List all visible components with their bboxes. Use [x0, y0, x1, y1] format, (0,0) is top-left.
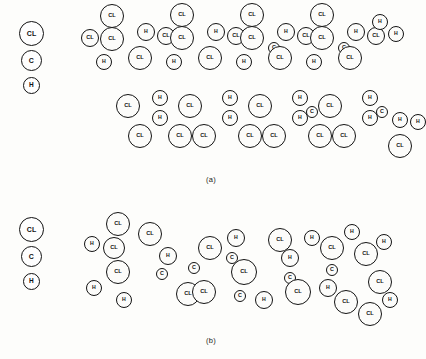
atom-h: H [166, 54, 182, 70]
atom-cl: CL [128, 124, 152, 148]
atom-cl: CL [231, 259, 257, 285]
atom-h: H [227, 229, 245, 247]
atom-cl: CL [240, 26, 264, 50]
atom-h: H [116, 292, 132, 308]
atom-cl: CL [310, 26, 334, 50]
atom-cl: CL [338, 46, 362, 70]
atom-h: H [137, 23, 155, 41]
molecular-model-a: CLCLCLHHCLCLCLCLHHCLCLCLCLHCHCLCLCLCLHCH… [84, 0, 422, 170]
atom-h: H [392, 112, 408, 128]
atom-c: C [156, 268, 168, 280]
atom-cl: CL [106, 260, 130, 284]
atom-cl: CL [238, 124, 262, 148]
atom-cl: CL [198, 46, 222, 70]
atom-cl: CL [262, 124, 286, 148]
atom-h: H [84, 236, 100, 252]
legend-atom-chlorine: CL [19, 217, 44, 242]
atom-cl: CL [368, 270, 392, 294]
atom-cl: CL [332, 124, 356, 148]
atom-cl: CL [358, 302, 382, 326]
atom-cl: CL [198, 236, 222, 260]
atom-h: H [222, 110, 238, 126]
atom-h: H [347, 23, 365, 41]
atom-cl: CL [103, 237, 125, 259]
atom-cl: CL [268, 46, 292, 70]
atom-cl: CL [388, 134, 412, 158]
atom-h: H [255, 291, 273, 309]
figure-panel-a: CL C H CLCLCLHHCLCLCLCLHHCLCLCLCLHCHCLCL… [0, 0, 422, 196]
atom-cl: CL [354, 242, 378, 266]
caption-a: (a) [0, 175, 422, 184]
atom-h: H [344, 224, 360, 240]
legend-b: CL C H [0, 196, 86, 316]
atom-cl: CL [81, 29, 99, 47]
figure-panel-b: CL C H HCLCLCLCLHHHCCLCCLCLHCCLCHCLHCCLH… [0, 196, 422, 359]
atom-h: H [152, 90, 168, 106]
atom-h: H [388, 26, 404, 42]
atom-cl: CL [100, 27, 124, 51]
atom-c: C [234, 290, 246, 302]
atom-cl: CL [138, 222, 162, 246]
atom-h: H [362, 110, 378, 126]
legend-a: CL C H [0, 0, 86, 120]
legend-atom-hydrogen: H [23, 273, 40, 290]
atom-h: H [304, 230, 320, 246]
atom-h: H [306, 54, 322, 70]
atom-h: H [382, 292, 398, 308]
legend-atom-carbon: C [21, 246, 42, 267]
atom-h: H [281, 249, 299, 267]
caption-b: (b) [0, 336, 422, 345]
atom-h: H [236, 54, 252, 70]
atom-cl: CL [168, 124, 192, 148]
atom-cl: CL [106, 212, 130, 236]
atom-cl: CL [128, 46, 152, 70]
atom-h: H [362, 90, 378, 106]
atom-cl: CL [334, 290, 358, 314]
atom-cl: CL [192, 280, 216, 304]
atom-cl: CL [100, 4, 124, 28]
atom-h: H [372, 14, 388, 30]
atom-cl: CL [308, 124, 332, 148]
legend-atom-carbon: C [21, 50, 42, 71]
atom-h: H [292, 90, 308, 106]
atom-cl: CL [240, 3, 264, 27]
atom-cl: CL [116, 94, 140, 118]
atom-h: H [292, 110, 308, 126]
atom-h: H [159, 247, 177, 265]
atom-h: H [222, 90, 238, 106]
atom-c: C [188, 262, 200, 274]
atom-h: H [96, 54, 112, 70]
atom-cl: CL [367, 27, 385, 45]
molecular-model-b: HCLCLCLCLHHHCCLCCLCLHCCLCHCLHCCLHCLCHCLH… [84, 196, 422, 359]
atom-h: H [86, 280, 102, 296]
atom-cl: CL [178, 94, 202, 118]
atom-cl: CL [170, 26, 194, 50]
legend-atom-chlorine: CL [19, 21, 44, 46]
atom-h: H [376, 234, 392, 250]
atom-cl: CL [192, 124, 216, 148]
atom-cl: CL [248, 94, 272, 118]
atom-c: C [326, 264, 338, 276]
atom-h: H [319, 279, 337, 297]
legend-atom-hydrogen: H [23, 77, 40, 94]
atom-h: H [410, 114, 426, 130]
atom-h: H [152, 110, 168, 126]
atom-cl: CL [170, 3, 194, 27]
atom-cl: CL [310, 3, 334, 27]
atom-cl: CL [320, 236, 344, 260]
atom-cl: CL [285, 279, 311, 305]
atom-cl: CL [318, 94, 342, 118]
atom-h: H [277, 23, 295, 41]
atom-h: H [207, 23, 225, 41]
